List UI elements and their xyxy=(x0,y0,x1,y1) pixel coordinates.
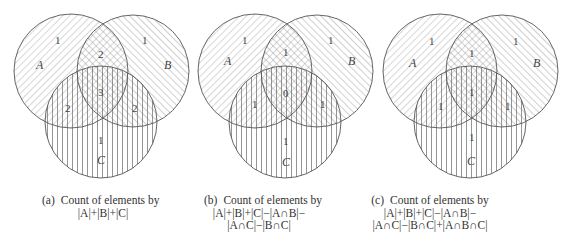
caption-tag: (a) xyxy=(42,194,55,206)
count-abc: 3 xyxy=(98,86,104,98)
venn-diagram-b: 1 1 1 0 1 1 1 A B C xyxy=(184,0,376,185)
count-ac: 2 xyxy=(65,102,71,114)
count-ac: 1 xyxy=(252,98,258,110)
caption-formula-line: |A|+|B|+|C|−|A∩B|− xyxy=(371,207,489,220)
count-ab: 2 xyxy=(98,48,104,60)
caption-text: Count of elements by xyxy=(223,194,322,206)
count-c-only: 1 xyxy=(469,131,475,143)
caption-tag: (c) xyxy=(371,194,384,206)
venn-diagram-c: 1 1 1 1 1 1 1 A B C xyxy=(369,0,561,185)
count-a-only: 1 xyxy=(429,35,435,47)
count-abc: 1 xyxy=(469,86,475,98)
caption-formula-line: |A|+|B|+|C|−|A∩B|− xyxy=(204,207,314,220)
label-a: A xyxy=(223,54,232,68)
caption-tag: (b) xyxy=(204,194,217,206)
label-c: C xyxy=(282,155,291,169)
count-ab: 1 xyxy=(469,47,475,59)
caption-text: Count of elements by xyxy=(61,194,160,206)
count-bc: 1 xyxy=(505,100,511,112)
caption-formula-line: |A∩C|−|B∩C| xyxy=(204,219,314,232)
caption-c: (c)Count of elements by |A|+|B|+|C|−|A∩B… xyxy=(371,194,489,232)
caption-formula-line: |A∩C|−|B∩C|+|A∩B∩C| xyxy=(371,219,489,232)
label-c: C xyxy=(97,153,106,167)
label-a: A xyxy=(35,58,44,72)
caption-b: (b)Count of elements by |A|+|B|+|C|−|A∩B… xyxy=(204,194,314,232)
count-a-only: 1 xyxy=(55,34,61,46)
count-b-only: 1 xyxy=(513,35,519,47)
count-c-only: 1 xyxy=(283,135,289,147)
caption-text: Count of elements by xyxy=(390,194,489,206)
label-b: B xyxy=(348,54,356,68)
count-b-only: 1 xyxy=(328,34,334,46)
venn-diagram-a: 1 1 2 3 2 2 1 A B C xyxy=(0,0,192,185)
count-c-only: 1 xyxy=(98,134,104,146)
caption-formula-line: |A|+|B|+|C| xyxy=(42,207,154,220)
caption-a: (a)Count of elements by |A|+|B|+|C| xyxy=(42,194,154,219)
count-abc: 0 xyxy=(283,87,289,99)
count-b-only: 1 xyxy=(142,34,148,46)
label-b: B xyxy=(533,56,541,70)
count-ac: 1 xyxy=(438,100,444,112)
count-a-only: 1 xyxy=(242,34,248,46)
count-bc: 1 xyxy=(320,98,326,110)
label-b: B xyxy=(164,58,172,72)
label-c: C xyxy=(467,154,476,168)
count-ab: 1 xyxy=(283,46,289,58)
count-bc: 2 xyxy=(132,102,138,114)
label-a: A xyxy=(408,56,417,70)
